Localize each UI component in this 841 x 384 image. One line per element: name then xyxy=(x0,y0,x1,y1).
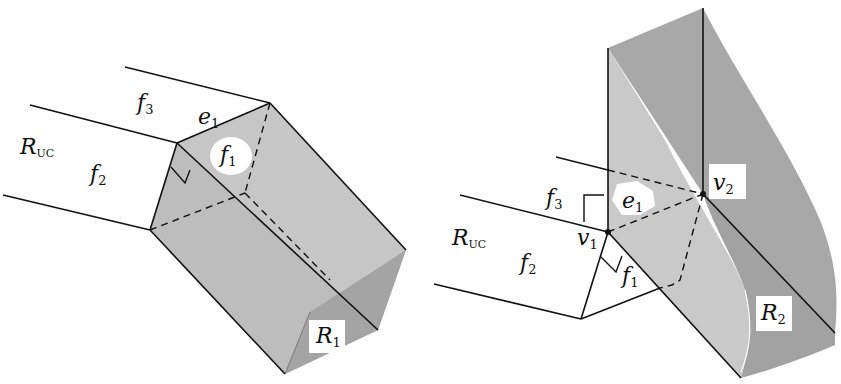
ruc-middle-line xyxy=(30,105,177,143)
left-figure: RUC f3 e1 f2 f1 R1 xyxy=(3,67,406,374)
ruc-bottom-line xyxy=(434,284,581,319)
label-f2: f2 xyxy=(518,250,536,277)
label-f2: f2 xyxy=(88,161,106,188)
label-f3: f3 xyxy=(544,185,562,212)
label-f1: f1 xyxy=(620,263,638,290)
front-bottom-edge xyxy=(581,288,660,319)
vertex-v2-dot xyxy=(700,191,706,197)
label-e1: e1 xyxy=(198,104,219,131)
ruc-top-line xyxy=(125,67,270,103)
ruc-top-line xyxy=(556,157,608,170)
diagram-canvas: RUC f3 e1 f2 f1 R1 xyxy=(0,0,841,384)
label-r-uc: RUC xyxy=(451,225,486,251)
right-angle-marker-f3 xyxy=(584,195,604,222)
label-f3: f3 xyxy=(135,90,153,117)
label-r-uc: RUC xyxy=(19,134,54,160)
ruc-bottom-line xyxy=(3,195,150,230)
vertex-v1-dot xyxy=(605,229,611,235)
right-figure: RUC f3 e1 v1 f2 f1 v2 R2 xyxy=(434,8,836,378)
right-angle-marker-f1 xyxy=(601,256,622,272)
